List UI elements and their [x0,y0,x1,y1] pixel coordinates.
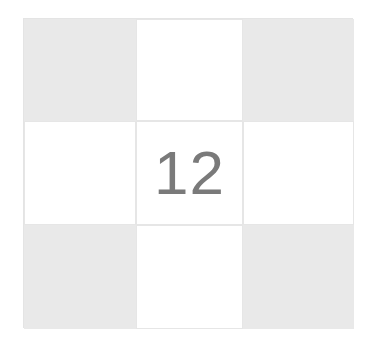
cell-value: 12 [154,142,225,204]
cell-r0-c2[interactable] [243,19,354,121]
cell-r2-c2[interactable] [243,225,354,329]
cell-r1-c1-center[interactable]: 12 [136,121,243,225]
cell-r1-c0[interactable] [24,121,136,225]
cell-r2-c1[interactable] [136,225,243,329]
cell-r1-c2[interactable] [243,121,354,225]
cell-r0-c0[interactable] [24,19,136,121]
cell-r2-c0[interactable] [24,225,136,329]
puzzle-grid: 12 [23,18,353,328]
cell-r0-c1[interactable] [136,19,243,121]
